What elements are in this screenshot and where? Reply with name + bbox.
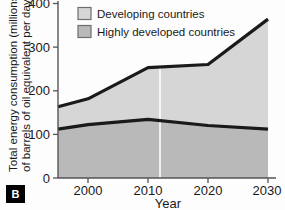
y-axis-title-line1: Total energy consumption (millions: [7, 0, 19, 172]
legend-label-highly-developed: Highly developed countries: [97, 26, 235, 38]
y-tick-label-0: 0: [43, 171, 50, 186]
legend-swatch-highly-developed: [78, 26, 91, 38]
x-tick-label-2020: 2020: [194, 183, 223, 198]
x-tick-label-2000: 2000: [74, 183, 103, 198]
legend-label-developing: Developing countries: [97, 8, 205, 20]
x-axis-title: Year: [155, 196, 182, 210]
figure-panel: 400 300 200 100 0 2000 2010 2020 2030 Ye…: [0, 0, 285, 210]
y-axis-title-line2: of barrels of oil equivalent per day): [20, 0, 32, 172]
x-tick-label-2030: 2030: [253, 183, 282, 198]
stacked-area-chart: 400 300 200 100 0 2000 2010 2020 2030 Ye…: [0, 0, 285, 210]
legend-swatch-developing: [78, 8, 91, 20]
panel-badge-label: B: [12, 188, 20, 200]
